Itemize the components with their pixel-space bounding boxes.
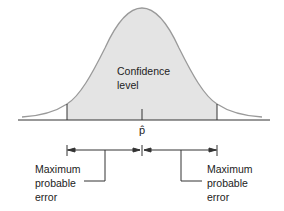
right-annotation-line3: error bbox=[207, 191, 230, 203]
arrowhead-right-icon bbox=[133, 148, 140, 152]
right-leader-line bbox=[181, 150, 202, 181]
confidence-level-label-line1: Confidence bbox=[117, 65, 170, 77]
arrowhead-left-icon bbox=[68, 148, 75, 152]
left-annotation-line1: Maximum bbox=[35, 163, 81, 175]
left-error-bar bbox=[67, 145, 140, 156]
arrowhead-left-icon bbox=[144, 148, 151, 152]
arrowhead-right-icon bbox=[209, 148, 216, 152]
left-annotation-line3: error bbox=[35, 191, 58, 203]
confidence-region bbox=[67, 8, 217, 120]
confidence-level-label-line2: level bbox=[117, 79, 139, 91]
right-annotation-line2: probable bbox=[207, 177, 248, 189]
left-annotation-line2: probable bbox=[35, 177, 76, 189]
p-hat-label: p̂ bbox=[139, 124, 145, 136]
diagram-canvas: Confidence level p̂ Maximum probable err… bbox=[0, 0, 284, 211]
confidence-interval-diagram: Confidence level p̂ Maximum probable err… bbox=[0, 0, 284, 211]
right-annotation-line1: Maximum bbox=[207, 163, 253, 175]
left-leader-line bbox=[84, 150, 105, 181]
